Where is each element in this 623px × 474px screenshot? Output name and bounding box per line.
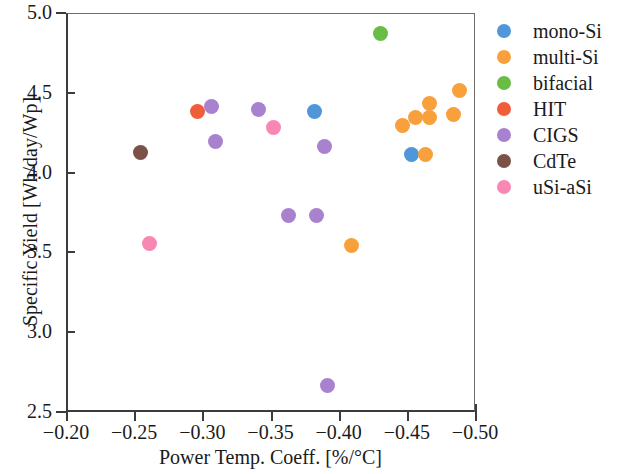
data-point-cigs bbox=[251, 102, 266, 117]
data-point-multi-si bbox=[418, 147, 433, 162]
x-axis-title: Power Temp. Coeff. [%/°C] bbox=[66, 446, 475, 469]
y-tick-mark bbox=[68, 92, 75, 94]
legend-marker-icon bbox=[497, 102, 511, 116]
y-tick-mark bbox=[68, 172, 75, 174]
plot-area bbox=[66, 13, 475, 412]
data-point-multi-si bbox=[395, 118, 410, 133]
data-point-multi-si bbox=[452, 83, 467, 98]
legend-item-cdte[interactable]: CdTe bbox=[497, 148, 617, 174]
legend-item-usi-asi[interactable]: uSi-aSi bbox=[497, 174, 617, 200]
data-point-mono-si bbox=[404, 147, 419, 162]
data-point-cdte bbox=[133, 145, 148, 160]
x-tick-label: −0.50 bbox=[435, 421, 515, 443]
legend-marker-icon bbox=[497, 76, 511, 90]
legend: mono-Simulti-SibifacialHITCIGSCdTeuSi-aS… bbox=[497, 18, 617, 200]
data-point-hit bbox=[190, 104, 205, 119]
data-point-mono-si bbox=[307, 104, 322, 119]
legend-label: CdTe bbox=[533, 151, 576, 171]
legend-label: CIGS bbox=[533, 125, 579, 145]
x-tick-mark bbox=[271, 412, 273, 421]
legend-marker-icon bbox=[497, 154, 511, 168]
legend-label: uSi-aSi bbox=[533, 177, 592, 197]
data-point-usi-asi bbox=[142, 236, 157, 251]
x-tick-mark bbox=[202, 412, 204, 421]
y-tick-mark bbox=[56, 411, 66, 413]
legend-marker-icon bbox=[497, 128, 511, 142]
y-tick-mark bbox=[68, 251, 75, 253]
x-tick-mark bbox=[339, 412, 341, 421]
legend-item-mono-si[interactable]: mono-Si bbox=[497, 18, 617, 44]
data-point-bifacial bbox=[373, 26, 388, 41]
legend-item-hit[interactable]: HIT bbox=[497, 96, 617, 122]
data-point-multi-si bbox=[446, 107, 461, 122]
y-tick-mark bbox=[68, 331, 75, 333]
legend-item-cigs[interactable]: CIGS bbox=[497, 122, 617, 148]
y-axis-title: Specific Yield [Wh/day/Wp] bbox=[19, 12, 42, 412]
legend-marker-icon bbox=[497, 24, 511, 38]
data-point-multi-si bbox=[408, 110, 423, 125]
data-point-cigs bbox=[309, 208, 324, 223]
legend-item-bifacial[interactable]: bifacial bbox=[497, 70, 617, 96]
legend-marker-icon bbox=[497, 50, 511, 64]
data-point-multi-si bbox=[422, 96, 437, 111]
chart-root: 2.53.03.54.04.55.0 −0.20−0.25−0.30−0.35−… bbox=[0, 0, 623, 474]
x-tick-mark bbox=[66, 404, 68, 421]
legend-item-multi-si[interactable]: multi-Si bbox=[497, 44, 617, 70]
legend-label: mono-Si bbox=[533, 21, 602, 41]
data-point-multi-si bbox=[422, 110, 437, 125]
legend-marker-icon bbox=[497, 180, 511, 194]
data-point-multi-si bbox=[344, 238, 359, 253]
y-tick-mark bbox=[56, 12, 66, 14]
data-points-layer bbox=[68, 14, 474, 410]
data-point-cigs bbox=[204, 99, 219, 114]
legend-label: multi-Si bbox=[533, 47, 599, 67]
x-tick-mark bbox=[475, 404, 477, 421]
legend-label: HIT bbox=[533, 99, 566, 119]
data-point-cigs bbox=[320, 378, 335, 393]
data-point-cigs bbox=[317, 139, 332, 154]
data-point-cigs bbox=[208, 134, 223, 149]
x-tick-mark bbox=[407, 412, 409, 421]
data-point-cigs bbox=[281, 208, 296, 223]
data-point-usi-asi bbox=[266, 120, 281, 135]
legend-label: bifacial bbox=[533, 73, 593, 93]
x-tick-mark bbox=[134, 412, 136, 421]
